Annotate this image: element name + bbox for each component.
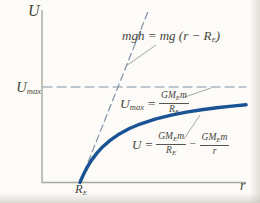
equals-sign: = bbox=[147, 97, 156, 111]
curve-eq-fraction-2: GMEm r bbox=[200, 133, 230, 157]
potential-energy-figure: U r Umax RE mgh = mg (r − RE) Umax = GME… bbox=[0, 0, 260, 203]
equals-sign: = bbox=[144, 138, 153, 151]
x-axis-label: r bbox=[240, 179, 245, 193]
curve-eq-fraction-1: GMEm RE bbox=[156, 132, 186, 157]
curve-eq-lhs: U bbox=[132, 138, 141, 151]
y-axis-label: U bbox=[28, 3, 40, 19]
umax-eq-fraction: GMEm RE bbox=[159, 91, 189, 116]
minus-sign: − bbox=[189, 138, 196, 149]
curve-equation: U = GMEm RE − GMEm r bbox=[132, 132, 229, 157]
umax-eq-lhs: Umax bbox=[120, 95, 144, 112]
re-tick-label: RE bbox=[70, 183, 92, 197]
umax-tick-label: Umax bbox=[8, 80, 41, 96]
tangent-line-label: mgh = mg (r − RE) bbox=[122, 29, 220, 44]
umax-equation: Umax = GMEm RE bbox=[120, 91, 189, 116]
